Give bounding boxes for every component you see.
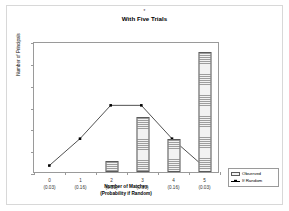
x-axis-tick-mark: [96, 172, 97, 175]
y-axis-tick-mark: [31, 130, 34, 131]
x-axis-title-line1: Number of Matches: [33, 184, 219, 191]
if-random-line-series: [34, 43, 218, 172]
bar: [167, 139, 180, 172]
y-axis-tick-mark: [31, 43, 34, 44]
y-axis-tick-mark: [31, 109, 34, 110]
bar: [136, 117, 149, 172]
if-random-data-marker: [48, 164, 51, 167]
plot-inner: 0246810120(0.03)1(0.16)2(0.31)3(0.31)4(0…: [34, 43, 218, 172]
x-axis-tick-mark: [65, 172, 66, 175]
y-axis-tick-mark: [31, 65, 34, 66]
page-title: With Five Trials: [0, 16, 289, 23]
x-axis-title-line2: (Probability if Random): [33, 191, 219, 198]
legend-item-observed[interactable]: Observed: [231, 171, 276, 178]
y-axis-tick-mark: [31, 87, 34, 88]
chart-title-block: * With Five Trials: [0, 10, 289, 23]
legend-item-if-random[interactable]: If Random: [231, 178, 276, 185]
x-axis-tick-mark: [34, 172, 35, 175]
x-axis-tick-mark: [158, 172, 159, 175]
bar: [198, 52, 211, 172]
chart-legend: Observed If Random: [228, 168, 279, 187]
bar: [105, 161, 118, 172]
chart-figure: * With Five Trials 0246810120(0.03)1(0.1…: [0, 0, 289, 211]
if-random-data-marker: [109, 104, 112, 107]
if-random-data-marker: [79, 137, 82, 140]
legend-label-observed: Observed: [242, 172, 261, 176]
legend-label-if-random: If Random: [242, 179, 262, 183]
y-axis-tick-mark: [31, 152, 34, 153]
x-axis-tick-mark: [220, 172, 221, 175]
if-random-data-marker: [140, 104, 143, 107]
hatched-bar-swatch-icon: [231, 172, 240, 177]
plot-area: 0246810120(0.03)1(0.16)2(0.31)3(0.31)4(0…: [33, 42, 219, 173]
x-axis-tick-mark: [127, 172, 128, 175]
line-marker-swatch-icon: [231, 179, 240, 184]
y-axis-title: Number of Principals: [16, 0, 21, 115]
x-axis-title: Number of Matches (Probability if Random…: [33, 184, 219, 198]
x-axis-tick-mark: [189, 172, 190, 175]
